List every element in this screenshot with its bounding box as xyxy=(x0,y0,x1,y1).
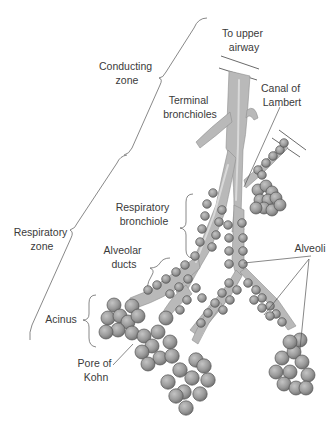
small-alveolus xyxy=(225,234,234,243)
alveolus xyxy=(179,401,193,415)
small-alveolus xyxy=(225,247,234,256)
small-alveolus xyxy=(184,275,193,284)
small-alveolus xyxy=(203,200,212,209)
small-alveolus xyxy=(215,218,224,227)
small-alveolus xyxy=(198,294,207,303)
alveolus xyxy=(299,381,313,395)
alveolus xyxy=(269,365,283,379)
conducting-zone-brace xyxy=(124,18,207,155)
small-alveolus xyxy=(176,306,185,315)
terminal-bronchioles-label: Terminal bronchioles xyxy=(163,94,217,120)
small-alveolus xyxy=(258,294,267,303)
alveolus xyxy=(193,387,207,401)
small-alveolus xyxy=(239,247,248,256)
small-alveolus xyxy=(218,289,227,298)
acinus-label: Acinus xyxy=(45,313,77,325)
alveolus xyxy=(163,335,177,349)
pore-of-kohn-label: Pore of Kohn xyxy=(78,357,115,383)
small-alveolus xyxy=(218,206,227,215)
small-alveolus xyxy=(239,260,248,269)
small-alveolus xyxy=(197,319,206,328)
alveolus xyxy=(295,355,309,369)
small-alveolus xyxy=(225,279,234,288)
airway-diagram: To upper airway Conducting zone Terminal… xyxy=(0,0,335,425)
small-alveolus xyxy=(162,275,171,284)
alveoli-label: Alveoli xyxy=(295,242,326,254)
small-alveolus xyxy=(204,309,213,318)
small-alveolus xyxy=(183,296,192,305)
small-alveolus xyxy=(278,318,287,327)
alveolus xyxy=(301,368,315,382)
small-alveolus xyxy=(225,260,234,269)
small-alveolus xyxy=(144,286,153,295)
respiratory-zone-label: Respiratory zone xyxy=(14,226,71,252)
alveolus xyxy=(101,311,115,325)
small-alveolus xyxy=(280,139,289,148)
small-alveolus xyxy=(252,286,261,295)
acinus-brace xyxy=(83,295,96,347)
conducting-zone-label: Conducting zone xyxy=(99,60,155,86)
alveolus xyxy=(283,335,297,349)
alveolus xyxy=(159,311,173,325)
small-alveolus xyxy=(244,279,253,288)
small-alveolus xyxy=(226,296,235,305)
small-alveolus xyxy=(224,221,233,230)
small-alveolus xyxy=(166,290,175,299)
small-alveolus xyxy=(175,283,184,292)
small-alveolus xyxy=(181,261,190,270)
small-alveolus xyxy=(209,189,218,198)
alveolus xyxy=(131,309,145,323)
alveolus xyxy=(165,349,179,363)
canal-of-lambert-label: Canal of Lambert xyxy=(261,82,303,108)
alveolus xyxy=(201,373,215,387)
to-upper-airway-label: To upper airway xyxy=(222,27,266,53)
alveolus xyxy=(274,199,286,211)
small-alveolus xyxy=(266,312,275,321)
alveolus xyxy=(161,375,175,389)
alveoli-leader-1 xyxy=(244,256,311,263)
alveolus xyxy=(250,202,262,214)
small-alveolus xyxy=(211,299,220,308)
small-alveolus xyxy=(258,171,267,180)
small-alveolus xyxy=(238,219,247,228)
small-alveolus xyxy=(219,306,228,315)
small-alveolus xyxy=(192,284,201,293)
alveolus xyxy=(141,357,155,371)
alveolus xyxy=(151,325,165,339)
alveolus xyxy=(99,325,113,339)
small-alveolus xyxy=(239,234,248,243)
small-alveolus xyxy=(172,268,181,277)
alveolar-ducts-label: Alveolar ducts xyxy=(104,244,145,270)
respiratory-bronchiole-brace xyxy=(180,194,193,258)
small-alveolus xyxy=(153,281,162,290)
small-alveolus xyxy=(233,286,242,295)
small-alveolus xyxy=(196,238,205,247)
alveolus xyxy=(173,363,187,377)
respiratory-bronchiole-label: Respiratory bronchiole xyxy=(116,201,173,227)
alveoli-leader-2 xyxy=(264,259,309,315)
small-alveolus xyxy=(208,243,217,252)
small-alveolus xyxy=(266,302,275,311)
small-alveolus xyxy=(201,212,210,221)
small-alveolus xyxy=(250,296,259,305)
small-alveolus xyxy=(198,225,207,234)
small-alveolus xyxy=(212,231,221,240)
small-alveolus xyxy=(258,304,267,313)
alveolus xyxy=(185,371,199,385)
alveolus xyxy=(197,359,211,373)
pore-of-kohn-leader xyxy=(113,344,133,365)
alveoli-clusters xyxy=(99,139,315,416)
alveolus xyxy=(169,389,183,403)
small-alveolus xyxy=(262,159,271,168)
small-alveolus xyxy=(191,252,200,261)
small-alveolus xyxy=(269,152,278,161)
alveolus xyxy=(111,323,125,337)
